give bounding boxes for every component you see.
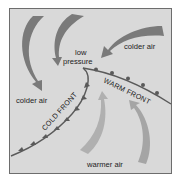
colder-air-label-top-right: colder air — [124, 42, 156, 51]
warmer-air-arrow-left — [80, 91, 108, 154]
colder-air-label-left: colder air — [16, 96, 48, 105]
weather-front-diagram: low pressure colder air colder air warme… — [0, 0, 181, 183]
warmer-air-arrow-right — [129, 100, 150, 164]
warmer-air-label: warmer air — [86, 160, 123, 169]
low-pressure-label-line1: low — [75, 48, 87, 57]
colder-air-arrow-left — [22, 16, 44, 91]
low-pressure-label-line2: pressure — [63, 57, 93, 66]
cold-front-line — [11, 68, 88, 156]
